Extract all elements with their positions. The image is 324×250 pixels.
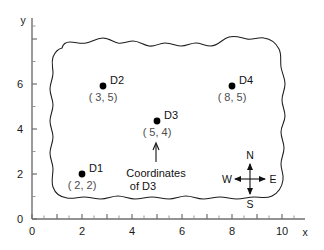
y-axis-label: y bbox=[20, 14, 26, 26]
callout-line-2: of D3 bbox=[130, 180, 156, 192]
x-tick-labels: 0 2 4 6 8 10 bbox=[29, 225, 288, 237]
y-axis-ticks bbox=[32, 26, 37, 219]
scatter-plot-figure: 0 2 4 6 8 10 0 2 4 6 x y D1 ( 2, 2) bbox=[0, 0, 324, 250]
compass-label-east: E bbox=[269, 173, 276, 185]
x-tick-label-0: 0 bbox=[29, 225, 35, 237]
data-point-label-d4: D4 bbox=[239, 74, 253, 86]
data-point-label-d2: D2 bbox=[110, 74, 124, 86]
plot-canvas: 0 2 4 6 8 10 0 2 4 6 x y D1 ( 2, 2) bbox=[0, 0, 324, 250]
x-axis-ticks bbox=[32, 214, 294, 219]
x-tick-label-10: 10 bbox=[276, 225, 288, 237]
callout-line-1: Coordinates bbox=[126, 167, 186, 179]
data-point-dot-d1[interactable] bbox=[79, 171, 86, 178]
data-point-coords-d4: ( 8, 5) bbox=[218, 91, 247, 103]
data-point-coords-d1: ( 2, 2) bbox=[68, 179, 97, 191]
compass-label-south: S bbox=[246, 198, 253, 210]
y-tick-labels: 0 2 4 6 bbox=[17, 78, 23, 225]
x-tick-label-8: 8 bbox=[229, 225, 235, 237]
compass-label-north: N bbox=[246, 149, 254, 161]
x-tick-label-2: 2 bbox=[79, 225, 85, 237]
y-tick-label-6: 6 bbox=[17, 78, 23, 90]
data-point-label-d3: D3 bbox=[164, 109, 178, 121]
data-point-label-d1: D1 bbox=[89, 162, 103, 174]
x-axis-label: x bbox=[302, 226, 308, 238]
y-tick-label-2: 2 bbox=[17, 168, 23, 180]
x-tick-label-6: 6 bbox=[179, 225, 185, 237]
compass-label-west: W bbox=[222, 173, 232, 185]
data-point-dot-d4[interactable] bbox=[229, 83, 236, 90]
data-point-coords-d2: ( 3, 5) bbox=[89, 91, 118, 103]
data-point-dot-d3[interactable] bbox=[154, 118, 161, 125]
data-point-dot-d2[interactable] bbox=[100, 83, 107, 90]
x-tick-label-4: 4 bbox=[129, 225, 135, 237]
data-point-coords-d3: ( 5, 4) bbox=[143, 126, 172, 138]
y-tick-label-4: 4 bbox=[17, 123, 23, 135]
y-tick-label-0: 0 bbox=[17, 213, 23, 225]
